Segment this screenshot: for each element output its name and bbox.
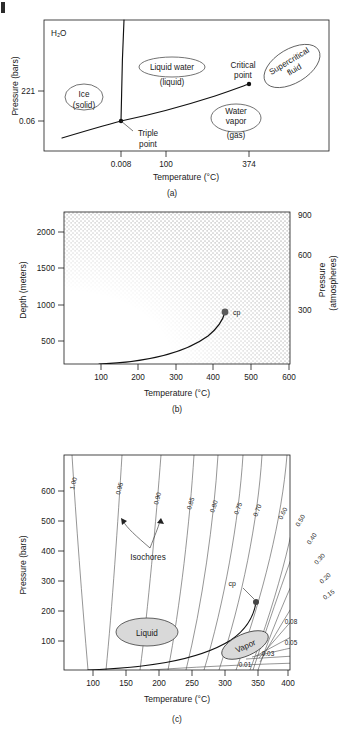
isochore-label-0p75: 0.75 <box>232 501 243 516</box>
panel-c-xtick-label-350: 350 <box>251 679 265 688</box>
water-phase-diagram-figure: H₂O 221 0.06 Pressure (bars) 0.008 100 3… <box>0 0 344 754</box>
panel-c-xtick-label-200: 200 <box>152 679 166 688</box>
isochore-label-0p05: 0.05 <box>285 639 298 646</box>
panel-b-ytick-label-2000: 2000 <box>37 228 56 237</box>
panel-b-y2-axis-label-line2: (atmospheres) <box>328 255 338 311</box>
panel-b-xtick-label-200: 200 <box>131 373 145 382</box>
panel-b-caption: (b) <box>172 404 182 414</box>
panel-a-ytick-label-006: 0.06 <box>19 117 35 126</box>
isochore-label-0p60: 0.60 <box>277 506 289 521</box>
triple-point-label-line1: Triple <box>138 129 159 138</box>
panel-a-caption: (a) <box>167 188 177 198</box>
panel-c-cp-leader <box>243 588 254 599</box>
ice-region-sublabel: (solid) <box>73 101 96 110</box>
panel-c-ytick-label-300: 300 <box>41 577 55 586</box>
isochore-label-0p80: 0.80 <box>208 499 219 513</box>
panel-c-ytick-label-200: 200 <box>41 607 55 616</box>
panel-c-xtick-label-150: 150 <box>119 679 133 688</box>
panel-b-ytick-label-1000: 1000 <box>37 301 56 310</box>
isochore-label-0p30: 0.30 <box>313 551 327 565</box>
isochores-arrowhead-left <box>121 518 127 525</box>
panel-a-xtick-label-374: 374 <box>242 160 256 169</box>
panel-c-ytick-label-500: 500 <box>41 517 55 526</box>
ice-region-label: Ice <box>79 90 90 99</box>
panel-c-caption: (c) <box>172 714 182 724</box>
panel-b-y2tick-label-300: 300 <box>298 306 312 315</box>
triple-point-leader <box>121 121 133 131</box>
isochore-label-0p95: 0.95 <box>114 481 124 495</box>
panel-c-ytick-label-400: 400 <box>41 547 55 556</box>
isochore-label-0p20: 0.20 <box>318 571 332 585</box>
panel-a-xtick-label-0008: 0.008 <box>111 160 132 169</box>
panel-c-ytick-label-100: 100 <box>41 637 55 646</box>
isochore-label-0p50: 0.50 <box>294 513 307 528</box>
panel-b-y2tick-label-900: 900 <box>298 211 312 220</box>
isochore-line-0p15 <box>259 570 336 658</box>
isochore-label-1p00: 1.00 <box>68 476 78 490</box>
panel-c: cp 1.00 0.95 0.90 0.85 0.80 0.75 0.70 0.… <box>18 455 342 724</box>
sublimation-curve <box>62 121 121 138</box>
isochore-label-0p15: 0.15 <box>321 588 336 601</box>
panel-a: H₂O 221 0.06 Pressure (bars) 0.008 100 3… <box>10 20 329 198</box>
isochore-label-0p03: 0.03 <box>262 650 275 657</box>
panel-c-y-axis-label: Pressure (bars) <box>18 535 28 594</box>
panel-b-y2-axis-label-line1: Pressure <box>317 263 327 298</box>
isochore-label-0p08: 0.08 <box>285 618 298 625</box>
panel-c-xtick-label-300: 300 <box>218 679 232 688</box>
panel-a-xtick-label-100: 100 <box>159 160 173 169</box>
water-vapor-region-label-line1: Water <box>225 107 247 116</box>
fusion-curve <box>121 20 124 121</box>
critical-point-label-line2: point <box>234 71 252 80</box>
isochore-label-0p90: 0.90 <box>152 491 162 505</box>
panel-b-ytick-label-500: 500 <box>41 337 55 346</box>
panel-c-x-axis-label: Temperature (°C) <box>144 694 210 704</box>
panel-b-ytick-label-1500: 1500 <box>37 264 56 273</box>
panel-b-x-axis-label: Temperature (°C) <box>144 388 210 398</box>
panel-b-xtick-label-600: 600 <box>282 373 296 382</box>
panel-c-cp-label: cp <box>229 580 237 588</box>
isochores-arrowhead-right <box>157 518 164 524</box>
panel-a-ytick-label-221: 221 <box>21 87 35 96</box>
panel-b-xtick-label-100: 100 <box>94 373 108 382</box>
panel-b-stipple-field <box>64 212 290 364</box>
panel-a-y-axis-label: Pressure (bars) <box>10 56 20 115</box>
panel-b-xtick-label-400: 400 <box>206 373 220 382</box>
panel-a-x-axis-label: Temperature (°C) <box>153 172 219 182</box>
panel-a-plot-frame <box>44 20 329 151</box>
substance-label: H₂O <box>51 29 66 38</box>
panel-c-ytick-label-600: 600 <box>41 487 55 496</box>
water-vapor-region-label-line2: vapor <box>226 117 247 126</box>
panel-c-xtick-label-100: 100 <box>86 679 100 688</box>
isochores-label: Isochores <box>130 553 166 562</box>
liquid-region-label: Liquid <box>136 629 158 638</box>
panel-c-xtick-label-400: 400 <box>281 679 295 688</box>
isochore-label-0p01: 0.01 <box>239 661 252 668</box>
water-vapor-region-sublabel: (gas) <box>227 131 246 140</box>
critical-point-marker <box>247 82 251 86</box>
isochore-label-0p70: 0.70 <box>251 503 262 518</box>
isochores-arrow-left <box>123 521 150 548</box>
liquid-water-region-sublabel: (liquid) <box>160 78 185 87</box>
panel-b: cp 2000 1500 1000 500 Depth (meters) 900… <box>18 211 338 414</box>
panel-b-cp-label: cp <box>233 309 241 317</box>
panel-b-xtick-label-500: 500 <box>244 373 258 382</box>
isochore-label-0p85: 0.85 <box>185 496 195 510</box>
panel-b-y-axis-label: Depth (meters) <box>18 261 28 318</box>
panel-b-xtick-label-300: 300 <box>169 373 183 382</box>
panel-c-critical-point-marker <box>253 599 259 605</box>
isochore-lines-group <box>72 455 342 670</box>
liquid-water-region-label: Liquid water <box>150 63 194 72</box>
panel-b-critical-point-marker <box>222 309 229 316</box>
triple-point-label-line2: point <box>139 140 157 149</box>
critical-point-label-line1: Critical <box>230 61 255 70</box>
isochore-label-0p40: 0.40 <box>305 531 318 546</box>
panel-c-xtick-label-250: 250 <box>185 679 199 688</box>
panel-b-y2tick-label-600: 600 <box>298 251 312 260</box>
